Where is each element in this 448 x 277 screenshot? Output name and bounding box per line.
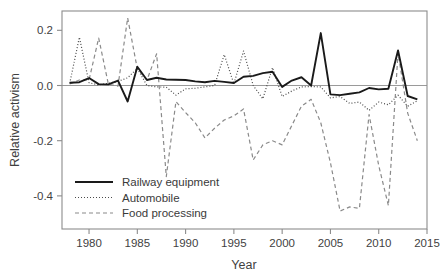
x-axis-label: Year (231, 258, 256, 272)
legend-label: Food processing (122, 207, 207, 219)
relative-activism-line-chart: 0.20.0-0.2-0.4 1980198519901995200020052… (0, 0, 448, 277)
y-tick-label: -0.4 (33, 190, 53, 202)
x-tick-label: 2000 (269, 237, 295, 249)
y-axis-label: Relative activism (8, 73, 22, 167)
figure-background (0, 0, 448, 277)
y-tick-label: 0.2 (37, 24, 53, 36)
x-tick-label: 1985 (125, 237, 151, 249)
x-tick-label: 2015 (414, 237, 440, 249)
x-tick-label: 2010 (366, 237, 392, 249)
legend-label: Railway equipment (122, 176, 220, 188)
y-tick-label: -0.2 (33, 135, 53, 147)
x-tick-label: 1980 (76, 237, 102, 249)
y-tick-label: 0.0 (37, 80, 53, 92)
x-tick-label: 1990 (173, 237, 199, 249)
x-tick-label: 2005 (318, 237, 344, 249)
legend-label: Automobile (122, 192, 180, 204)
x-tick-label: 1995 (221, 237, 247, 249)
chart-figure: 0.20.0-0.2-0.4 1980198519901995200020052… (0, 0, 448, 277)
